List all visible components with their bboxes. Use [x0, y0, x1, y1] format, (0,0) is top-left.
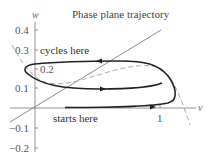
arrow-middle-icon	[100, 87, 106, 92]
annotation-cycles-here: cycles here	[40, 44, 89, 56]
w-axis-label: w	[32, 9, 39, 20]
v-axis-label: v	[198, 102, 203, 113]
chart-title: Phase plane trajectory	[72, 8, 170, 20]
tick-v-1: 1	[157, 112, 163, 124]
tick-minus-0.1: −0.1	[9, 122, 29, 134]
arrow-top-icon	[96, 59, 102, 64]
phase-plane-chart: Phase plane trajectory w v 0.4 0.3 0.2 0…	[0, 0, 214, 160]
w-axis-ticks	[35, 30, 38, 148]
tick-0.4: 0.4	[15, 24, 29, 36]
v-nullcline-curve	[12, 45, 190, 125]
annotation-starts-here: starts here	[53, 112, 98, 124]
tick-minus-0.2: −0.2	[9, 142, 29, 154]
tick-0.2: 0.2	[40, 63, 54, 75]
tick-0.1: 0.1	[15, 82, 29, 94]
